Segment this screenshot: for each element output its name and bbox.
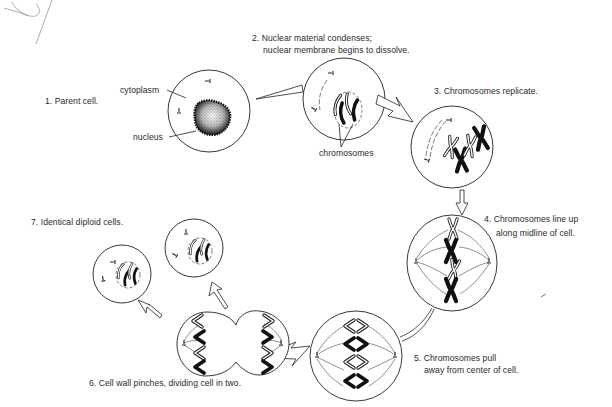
cell-6-cytokinesis: [177, 311, 289, 376]
corner-scribble: [4, 0, 52, 44]
stage-4-line-2: along midline of cell.: [484, 227, 578, 239]
stage-7-label: 7. Identical diploid cells.: [31, 216, 123, 228]
stage-5-line-2: away from center of cell.: [414, 364, 518, 376]
stage-7-text: 7. Identical diploid cells.: [31, 217, 123, 227]
stage-2-line-1: 2. Nuclear material condenses;: [252, 32, 410, 44]
cytoplasm-label: cytoplasm: [120, 84, 159, 96]
arrow-6-to-7a: [138, 300, 162, 318]
cell-7b-daughter: [165, 219, 223, 277]
stage-1-text: 1. Parent cell.: [45, 96, 98, 106]
stage-2-line-2: nuclear membrane begins to dissolve.: [252, 44, 410, 56]
cell-5-anaphase: [310, 311, 402, 401]
mitosis-diagram: [0, 0, 612, 407]
stage-2-label: 2. Nuclear material condenses; nuclear m…: [252, 32, 410, 56]
cell-1-parent: [167, 70, 250, 152]
stage-3-text: 3. Chromosomes replicate.: [434, 86, 538, 96]
stage-4-label: 4. Chromosomes line up along midline of …: [484, 213, 578, 239]
stage-3-label: 3. Chromosomes replicate.: [434, 85, 538, 97]
nucleus-label: nucleus: [133, 131, 163, 143]
stage-5-label: 5. Chromosomes pull away from center of …: [414, 352, 518, 376]
stage-4-line-1: 4. Chromosomes line up: [484, 213, 578, 225]
stage-6-label: 6. Cell wall pinches, dividing cell in t…: [89, 377, 241, 389]
stray-mark: [541, 294, 546, 297]
cell-3-replication: [411, 106, 493, 188]
arrow-4-to-5: [400, 308, 434, 341]
stage-6-text: 6. Cell wall pinches, dividing cell in t…: [89, 378, 241, 388]
cell-2-prophase: [303, 58, 385, 147]
stage-5-line-1: 5. Chromosomes pull: [414, 352, 518, 364]
arrow-6-to-7b: [209, 282, 228, 309]
chromosomes-label: chromosomes: [319, 147, 374, 159]
arrow-3-to-4: [456, 190, 468, 215]
stage-1-label: 1. Parent cell.: [45, 95, 98, 107]
cell-7a-daughter: [93, 245, 151, 303]
arrow-1-to-2: [256, 85, 303, 99]
